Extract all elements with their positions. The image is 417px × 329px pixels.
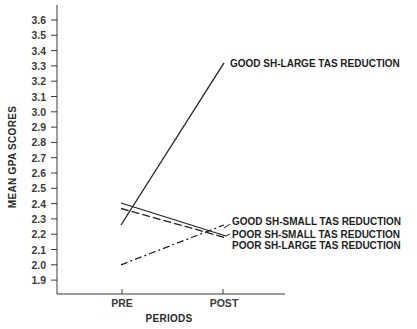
y-tick-label: 2.8 (31, 136, 46, 148)
line-chart: 3.6 3.5 3.4 3.3 3.2 3.1 3.0 2.9 2.8 2.7 … (0, 0, 417, 329)
y-tick-label: 2.9 (31, 121, 46, 133)
y-tick-label: 3.3 (31, 60, 46, 72)
y-tick-label: 2.6 (31, 167, 46, 179)
y-tick-label: 2.5 (31, 182, 46, 194)
y-tick-label: 3.5 (31, 29, 46, 41)
y-tick-label: 2.7 (31, 152, 46, 164)
x-tick-label-pre: PRE (111, 297, 133, 309)
series-line-good-large (121, 63, 224, 225)
y-axis-title: MEAN GPA SCORES (7, 106, 18, 208)
y-tick-labels: 3.6 3.5 3.4 3.3 3.2 3.1 3.0 2.9 2.8 2.7 … (31, 14, 46, 286)
series-label-good-large: GOOD SH-LARGE TAS REDUCTION (230, 58, 400, 69)
series-line-poor-large (121, 203, 226, 236)
series-line-poor-small (121, 209, 226, 238)
y-tick-label: 2.4 (31, 198, 46, 210)
x-tick-label-post: POST (210, 297, 239, 309)
x-axis-title: PERIODS (145, 313, 192, 324)
y-tick-label: 3.6 (31, 14, 46, 26)
y-tick-label: 3.0 (31, 106, 46, 118)
label-leader-poor (226, 234, 230, 236)
y-ticks (51, 20, 57, 280)
y-tick-label: 2.0 (31, 259, 46, 271)
label-leader-good-small (224, 224, 230, 228)
y-tick-label: 1.9 (31, 274, 46, 286)
series-label-poor-large: POOR SH-LARGE TAS REDUCTION (232, 240, 401, 251)
y-tick-label: 3.4 (31, 45, 46, 57)
series-label-good-small: GOOD SH-SMALL TAS REDUCTION (232, 216, 401, 227)
y-tick-label: 3.1 (31, 91, 46, 103)
y-tick-label: 2.3 (31, 213, 46, 225)
series-label-poor-small: POOR SH-SMALL TAS REDUCTION (232, 229, 400, 240)
y-tick-label: 3.2 (31, 75, 46, 87)
y-tick-label: 2.2 (31, 228, 46, 240)
y-tick-label: 2.1 (31, 244, 46, 256)
